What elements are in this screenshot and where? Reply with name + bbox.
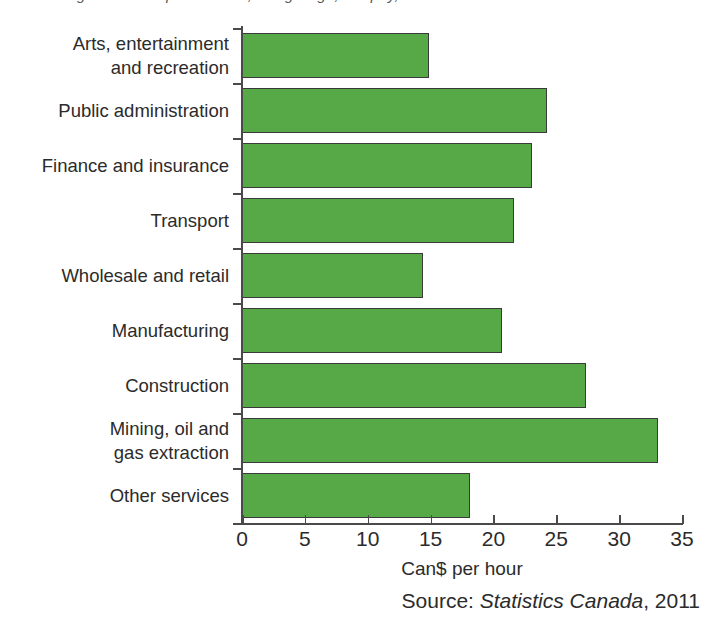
bar-row xyxy=(242,248,682,303)
x-tick-label: 20 xyxy=(482,527,505,551)
y-tick xyxy=(233,28,242,30)
source-publisher: Statistics Canada xyxy=(480,589,643,612)
category-label: Mining, oil and gas extraction xyxy=(0,413,235,468)
bar xyxy=(242,308,502,353)
y-tick xyxy=(233,468,242,470)
x-tick-label: 15 xyxy=(419,527,442,551)
bar xyxy=(242,253,423,298)
bar xyxy=(242,418,658,463)
bar xyxy=(242,473,470,518)
source-note: Source: Statistics Canada, 2011 xyxy=(402,589,700,613)
x-tick xyxy=(368,515,370,524)
y-tick xyxy=(233,138,242,140)
bar-row xyxy=(242,303,682,358)
x-tick-label: 10 xyxy=(356,527,379,551)
y-tick xyxy=(233,248,242,250)
category-label: Wholesale and retail xyxy=(0,248,235,303)
y-tick xyxy=(233,358,242,360)
bar xyxy=(242,363,586,408)
x-axis-line xyxy=(241,523,683,525)
x-axis-title: Can$ per hour xyxy=(242,558,682,580)
bar-row xyxy=(242,138,682,193)
x-tick-label: 0 xyxy=(236,527,248,551)
x-tick xyxy=(682,515,684,524)
y-tick xyxy=(233,413,242,415)
source-suffix: , 2011 xyxy=(643,589,700,612)
y-axis-line xyxy=(241,26,243,525)
x-tick-label: 5 xyxy=(299,527,311,551)
category-label: Other services xyxy=(0,468,235,523)
bar xyxy=(242,198,514,243)
bar-row xyxy=(242,468,682,523)
bar-row xyxy=(242,413,682,468)
y-tick xyxy=(233,523,242,525)
category-label: Public administration xyxy=(0,83,235,138)
category-label: Finance and insurance xyxy=(0,138,235,193)
bar xyxy=(242,143,532,188)
x-tick xyxy=(431,515,433,524)
x-tick xyxy=(305,515,307,524)
y-tick xyxy=(233,303,242,305)
category-label: Transport xyxy=(0,193,235,248)
x-tick xyxy=(619,515,621,524)
source-prefix: Source: xyxy=(402,589,480,612)
x-tick xyxy=(556,515,558,524)
y-tick xyxy=(233,83,242,85)
x-tick xyxy=(493,515,495,524)
bar-row xyxy=(242,193,682,248)
x-tick-label: 30 xyxy=(607,527,630,551)
category-axis-labels: Arts, entertainment and recreationPublic… xyxy=(0,28,235,523)
category-label: Manufacturing xyxy=(0,303,235,358)
x-tick-label: 35 xyxy=(670,527,693,551)
bar-row xyxy=(242,358,682,413)
bar-chart: Arts, entertainment and recreationPublic… xyxy=(0,0,718,629)
bar-row xyxy=(242,83,682,138)
y-tick xyxy=(233,193,242,195)
category-label: Construction xyxy=(0,358,235,413)
bar xyxy=(242,33,429,78)
plot-area xyxy=(242,28,682,523)
bar xyxy=(242,88,547,133)
bar-row xyxy=(242,28,682,83)
category-label: Arts, entertainment and recreation xyxy=(0,28,235,83)
x-tick xyxy=(242,515,244,524)
x-tick-label: 25 xyxy=(545,527,568,551)
